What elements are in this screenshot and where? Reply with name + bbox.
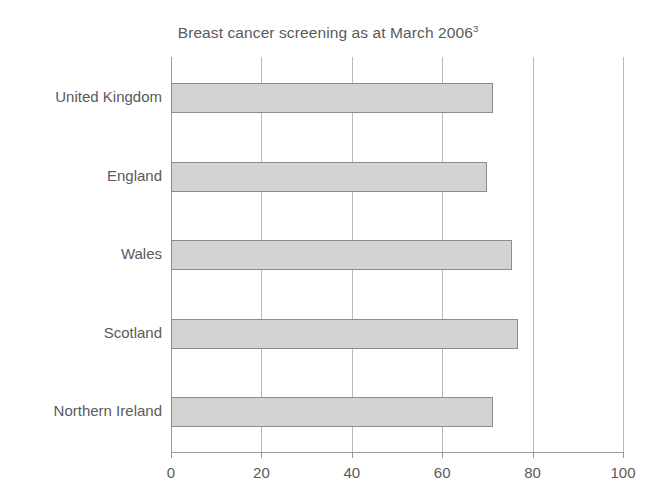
chart-title-footnote-marker: 3 [473,23,478,34]
x-tick-60 [442,452,443,458]
gridline-80 [533,57,534,452]
x-tick-label-100: 100 [593,464,653,481]
x-tick-0 [171,452,172,458]
category-label-united-kingdom: United Kingdom [0,88,162,105]
x-tick-80 [533,452,534,458]
x-tick-label-80: 80 [503,464,563,481]
x-tick-20 [261,452,262,458]
category-axis-labels: United KingdomEnglandWalesScotlandNorthe… [0,0,162,504]
bar [171,240,512,270]
x-tick-label-60: 60 [412,464,472,481]
gridline-100 [623,57,624,452]
x-tick-100 [623,452,624,458]
bar [171,319,518,349]
x-tick-label-0: 0 [141,464,201,481]
chart-title-text: Breast cancer screening as at March 2006 [178,24,473,41]
x-tick-label-40: 40 [322,464,382,481]
bar [171,162,487,192]
category-label-england: England [0,167,162,184]
category-label-northern-ireland: Northern Ireland [0,402,162,419]
x-tick-40 [352,452,353,458]
plot-area [171,57,623,452]
chart-figure: Breast cancer screening as at March 2006… [0,0,656,504]
x-axis-line [171,452,624,453]
category-label-wales: Wales [0,245,162,262]
x-tick-label-20: 20 [231,464,291,481]
bar [171,83,493,113]
category-label-scotland: Scotland [0,324,162,341]
bar [171,397,493,427]
